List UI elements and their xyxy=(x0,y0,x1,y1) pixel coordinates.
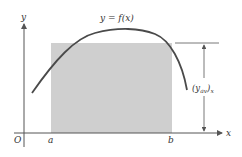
x-axis-label: x xyxy=(226,128,231,138)
average-height-label: (yav)x xyxy=(192,83,214,94)
y-axis-label: y xyxy=(20,12,27,22)
average-rectangle xyxy=(51,43,172,133)
average-value-diagram: y x O a b y = f(x) (yav)x xyxy=(0,0,242,157)
a-label: a xyxy=(48,135,53,145)
curve-label: y = f(x) xyxy=(99,13,134,23)
origin-label: O xyxy=(14,135,22,145)
b-label: b xyxy=(168,135,174,145)
